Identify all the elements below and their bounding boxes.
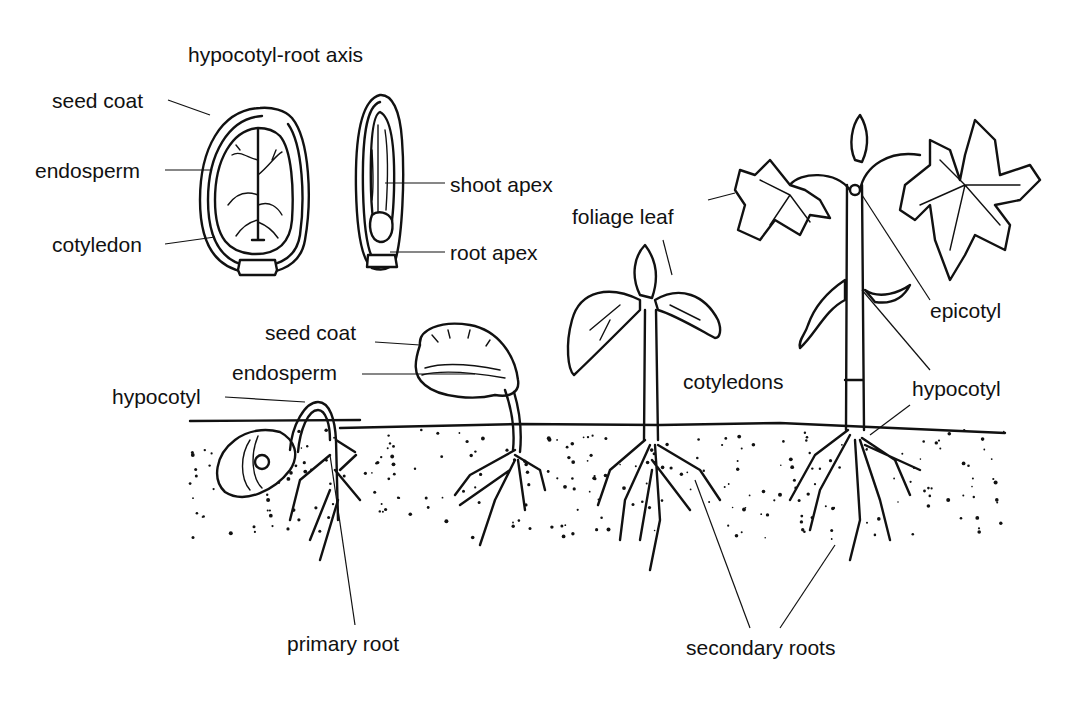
soil-speck [978, 527, 980, 529]
soil-speck [560, 525, 563, 528]
soil-speck [865, 448, 867, 450]
soil-speck [646, 483, 648, 485]
soil-speck [838, 466, 841, 469]
soil-speck [594, 477, 597, 480]
soil-speck [752, 443, 756, 447]
soil-speck [806, 436, 809, 439]
soil-speck [512, 525, 515, 528]
soil-speck [977, 530, 981, 534]
soil-speck [697, 438, 700, 441]
soil-speck [938, 440, 940, 442]
soil-speck [436, 432, 439, 435]
soil-speck [992, 478, 994, 480]
soil-speck [760, 513, 762, 515]
soil-speck [587, 436, 589, 438]
soil-speck [474, 450, 476, 452]
soil-speck [650, 448, 654, 452]
soil-speck [444, 519, 448, 523]
soil-speck [208, 464, 210, 466]
label-seed-coat-mid: seed coat [265, 322, 356, 343]
label-endosperm-top: endosperm [35, 160, 140, 181]
soil-speck [295, 464, 298, 467]
soil-speck [471, 536, 475, 540]
soil-speck [632, 503, 635, 506]
soil-speck [474, 486, 476, 488]
soil-speck [442, 497, 444, 499]
soil-speck [382, 511, 384, 513]
soil-speck [749, 495, 751, 497]
soil-speck [910, 481, 912, 483]
leader-foliage-leaf [663, 240, 672, 275]
soil-speck [929, 495, 932, 498]
leader-hypocotyl-left [225, 397, 305, 402]
soil-speck [721, 444, 723, 446]
soil-speck [811, 467, 813, 469]
soil-speck [994, 481, 998, 485]
seedling-with-cotyledons [568, 245, 720, 570]
soil-speck [996, 502, 998, 504]
soil-speck [920, 458, 922, 460]
soil-speck [877, 517, 881, 521]
soil-speck [972, 478, 974, 480]
label-secondary-roots: secondary roots [686, 637, 835, 658]
soil-speck [287, 477, 291, 481]
soil-speck [286, 527, 289, 530]
soil-speck [809, 452, 811, 454]
diagram-artwork [0, 0, 1087, 704]
soil-speck [971, 486, 973, 488]
soil-speck [594, 475, 596, 477]
soil-speck [825, 505, 827, 507]
soil-speck [379, 510, 381, 512]
soil-speck [577, 509, 579, 511]
soil-speck [384, 508, 387, 511]
germinating-seed [217, 402, 360, 560]
soil-speck [661, 499, 664, 502]
label-hypocotyl-right: hypocotyl [912, 378, 1001, 399]
soil-speck [790, 465, 794, 469]
soil-speck [622, 486, 626, 490]
soil-speck [670, 466, 673, 469]
soil-speck [192, 536, 195, 539]
soil-speck [189, 482, 192, 485]
soil-speck [440, 455, 443, 458]
soil-speck [923, 490, 926, 493]
soil-speck [798, 499, 801, 502]
germination-diagram: hypocotyl-root axis seed coat endosperm … [0, 0, 1087, 704]
soil-speck [741, 531, 743, 533]
soil-speck [927, 504, 931, 508]
soil-speck [583, 436, 585, 438]
soil-speck [297, 430, 300, 433]
soil-speck [253, 525, 256, 528]
label-root-apex: root apex [450, 242, 538, 263]
soil-speck [393, 473, 396, 476]
soil-speck [327, 516, 330, 519]
soil-speck [414, 468, 416, 470]
soil-speck [648, 506, 651, 509]
soil-speck [195, 474, 198, 477]
soil-speck [562, 535, 566, 539]
soil-speck [481, 437, 485, 441]
soil-speck [893, 478, 895, 480]
soil-speck [773, 499, 775, 501]
soil-speck [897, 501, 899, 503]
soil-speck [831, 507, 835, 511]
soil-speck [963, 429, 965, 431]
soil-speck [829, 459, 832, 462]
soil-speck [213, 488, 215, 490]
soil-speck [973, 496, 975, 498]
soil-speck [780, 464, 782, 466]
soil-speck [462, 490, 465, 493]
soil-speck [479, 473, 482, 476]
soil-speck [967, 464, 970, 467]
soil-speck [960, 517, 963, 520]
soil-speck [912, 533, 915, 536]
soil-speck [266, 498, 270, 502]
soil-speck [409, 513, 413, 517]
soil-speck [526, 471, 529, 474]
soil-speck [459, 432, 461, 434]
soil-speck [999, 522, 1002, 525]
seed-section-side [356, 95, 403, 270]
soil-speck [343, 475, 346, 478]
soil-speck [995, 498, 999, 502]
soil-speck [742, 508, 746, 512]
